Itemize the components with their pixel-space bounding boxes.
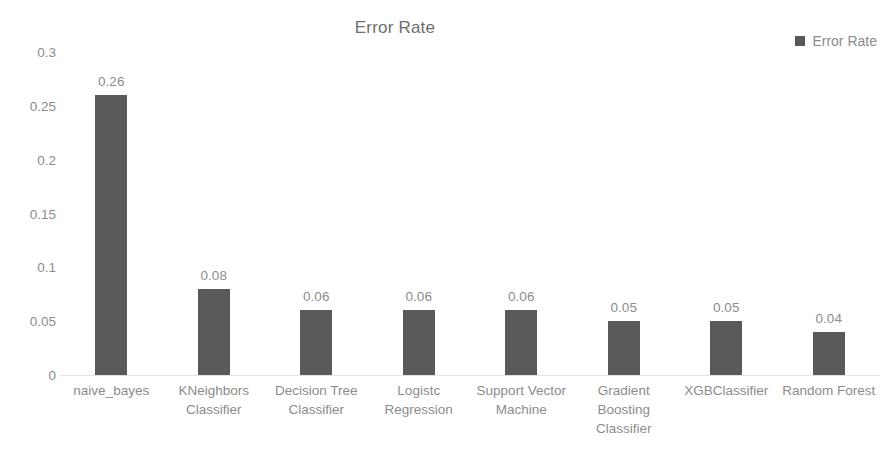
x-axis-category-label: Decision Tree Classifier	[265, 381, 368, 419]
x-axis-category-label: XGBClassifier	[675, 381, 778, 400]
bar[interactable]	[95, 95, 127, 375]
bar[interactable]	[813, 332, 845, 375]
legend-label-error-rate: Error Rate	[812, 33, 877, 49]
bar-value-label: 0.06	[508, 289, 534, 304]
axis-baseline	[60, 375, 880, 376]
x-axis-category-label: Logistc Regression	[368, 381, 471, 419]
bar-value-label: 0.06	[406, 289, 432, 304]
bar-group: 0.06	[470, 52, 573, 375]
bar-group: 0.04	[778, 52, 881, 375]
bar[interactable]	[198, 289, 230, 375]
x-axis-category-label: naive_bayes	[60, 381, 163, 400]
bar[interactable]	[608, 321, 640, 375]
chart-title: Error Rate	[0, 18, 790, 38]
bar-group: 0.06	[368, 52, 471, 375]
y-axis: 00.050.10.150.20.250.3	[0, 0, 56, 459]
chart-legend: Error Rate	[795, 33, 877, 49]
error-rate-bar-chart: Error Rate Error Rate 00.050.10.150.20.2…	[0, 0, 895, 459]
y-axis-tick-label: 0	[8, 368, 56, 383]
bar-group: 0.06	[265, 52, 368, 375]
bar-value-label: 0.05	[611, 300, 637, 315]
y-axis-tick-label: 0.1	[8, 260, 56, 275]
y-axis-tick-label: 0.2	[8, 152, 56, 167]
bar-group: 0.05	[675, 52, 778, 375]
bar[interactable]	[505, 310, 537, 375]
y-axis-tick-label: 0.15	[8, 206, 56, 221]
bar-value-label: 0.05	[713, 300, 739, 315]
x-axis-category-label: Gradient Boosting Classifier	[573, 381, 676, 438]
bar-value-label: 0.04	[816, 311, 842, 326]
y-axis-tick-label: 0.3	[8, 45, 56, 60]
bar[interactable]	[300, 310, 332, 375]
bar-group: 0.05	[573, 52, 676, 375]
x-axis-category-label: KNeighbors Classifier	[163, 381, 266, 419]
bar[interactable]	[403, 310, 435, 375]
y-axis-tick-label: 0.05	[8, 314, 56, 329]
x-axis-category-label: Support Vector Machine	[470, 381, 573, 419]
y-axis-tick-label: 0.25	[8, 98, 56, 113]
bar-value-label: 0.26	[98, 74, 124, 89]
bar[interactable]	[710, 321, 742, 375]
plot-area: 0.260.080.060.060.060.050.050.04	[60, 52, 880, 375]
bar-group: 0.26	[60, 52, 163, 375]
bar-value-label: 0.06	[303, 289, 329, 304]
bar-value-label: 0.08	[201, 268, 227, 283]
x-axis-category-label: Random Forest	[778, 381, 881, 400]
bar-group: 0.08	[163, 52, 266, 375]
legend-swatch-error-rate	[795, 36, 805, 46]
